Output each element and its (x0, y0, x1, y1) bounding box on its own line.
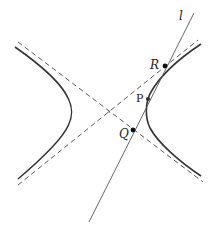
hyperbola-diagram: l R P Q (0, 0, 213, 234)
point-Q (131, 128, 136, 133)
hyperbola-left-branch (15, 47, 72, 179)
asymptote-ascending (18, 40, 198, 185)
label-l: l (179, 9, 183, 23)
point-R (163, 64, 168, 69)
point-P (146, 97, 150, 101)
label-Q: Q (119, 127, 129, 141)
label-R: R (149, 58, 159, 72)
line-l (89, 13, 194, 222)
hyperbola (15, 44, 201, 179)
center-point (108, 111, 110, 113)
label-P: P (136, 92, 144, 105)
asymptotes (18, 40, 203, 185)
